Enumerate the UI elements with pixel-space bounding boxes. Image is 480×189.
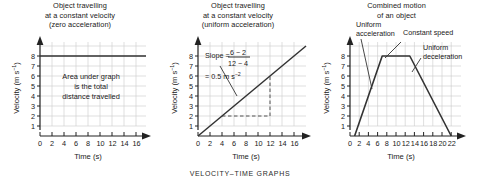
y-axis: 1 2 3 4 5 6 7 8 Velocity (m s−1) — [169, 36, 201, 131]
chart-panel-uniform-acceleration: Object travelling at a constant velocity… — [158, 0, 318, 165]
chart-note-area-under-graph: Area under graph is the total distance t… — [62, 72, 120, 101]
svg-text:0: 0 — [348, 139, 352, 148]
x-tick-labels: 0 2 4 6 8 10 12 14 16 18 20 22 — [348, 139, 456, 148]
svg-text:12: 12 — [108, 139, 116, 148]
svg-text:3: 3 — [341, 102, 345, 111]
figure-caption: VELOCITY–TIME GRAPHS — [0, 170, 480, 177]
svg-text:3: 3 — [31, 102, 35, 111]
y-axis-title: Velocity (m s−1) — [321, 62, 331, 114]
svg-text:5: 5 — [341, 82, 345, 91]
svg-text:8: 8 — [385, 139, 389, 148]
svg-text:2: 2 — [357, 139, 361, 148]
x-axis: 0 2 4 6 8 10 12 14 16 Time (s) — [38, 132, 151, 161]
x-tick-labels: 0 2 4 6 8 10 12 14 16 — [196, 139, 299, 148]
slope-denominator: 12 − 4 — [228, 59, 248, 68]
y-tick-labels: 1 2 3 4 5 6 7 8 — [189, 52, 193, 131]
annotation-line: Uniform — [423, 43, 448, 52]
svg-text:6: 6 — [31, 72, 35, 81]
svg-text:4: 4 — [31, 92, 35, 101]
svg-text:14: 14 — [278, 139, 286, 148]
svg-text:7: 7 — [341, 62, 345, 71]
annotation-constant-speed: Constant speed — [403, 28, 453, 37]
annotation-line: Uniform — [356, 20, 381, 29]
svg-text:10: 10 — [254, 139, 262, 148]
svg-text:22: 22 — [448, 139, 456, 148]
chart-note-line: is the total — [74, 82, 108, 91]
svg-text:4: 4 — [189, 92, 193, 101]
chart-panel-zero-acceleration: Object travelling at a constant velocity… — [0, 0, 160, 165]
x-axis: 0 2 4 6 8 10 12 14 16 18 20 22 Time (s) — [348, 132, 466, 161]
annotation-line: Constant speed — [403, 28, 453, 37]
slope-numerator: 6 − 2 — [230, 48, 246, 57]
svg-text:8: 8 — [341, 52, 345, 61]
svg-text:16: 16 — [290, 139, 298, 148]
chart-note-line: distance travelled — [62, 92, 120, 101]
x-axis-title: Time (s) — [387, 152, 415, 161]
svg-text:3: 3 — [189, 102, 193, 111]
svg-text:4: 4 — [366, 139, 370, 148]
svg-text:2: 2 — [31, 112, 35, 121]
plot-area-combined-motion: 1 2 3 4 5 6 7 8 Velocity (m s−1) — [313, 0, 480, 165]
x-tick-labels: 0 2 4 6 8 10 12 14 16 — [38, 139, 141, 148]
svg-text:6: 6 — [341, 72, 345, 81]
annotation-line: acceleration — [356, 29, 395, 38]
svg-text:2: 2 — [189, 112, 193, 121]
svg-text:4: 4 — [62, 139, 66, 148]
svg-text:20: 20 — [438, 139, 446, 148]
svg-text:6: 6 — [376, 139, 380, 148]
svg-text:1: 1 — [341, 122, 345, 131]
x-axis-title: Time (s) — [232, 152, 260, 161]
svg-text:14: 14 — [120, 139, 128, 148]
slope-label: Slope = — [205, 51, 230, 60]
svg-text:12: 12 — [266, 139, 274, 148]
y-tick-labels: 1 2 3 4 5 6 7 8 — [341, 52, 345, 131]
y-tick-labels: 1 2 3 4 5 6 7 8 — [31, 52, 35, 131]
chart-panel-combined-motion: Combined motion of an object — [313, 0, 473, 165]
annotation-line: deceleration — [423, 52, 462, 61]
svg-text:10: 10 — [392, 139, 400, 148]
svg-text:0: 0 — [38, 139, 42, 148]
svg-text:8: 8 — [86, 139, 90, 148]
svg-text:8: 8 — [189, 52, 193, 61]
svg-text:14: 14 — [411, 139, 419, 148]
svg-text:2: 2 — [50, 139, 54, 148]
svg-text:2: 2 — [208, 139, 212, 148]
svg-text:5: 5 — [189, 82, 193, 91]
velocity-time-graphs-figure: Object travelling at a constant velocity… — [0, 0, 480, 189]
svg-text:6: 6 — [189, 72, 193, 81]
svg-text:6: 6 — [74, 139, 78, 148]
x-axis-title: Time (s) — [74, 152, 102, 161]
svg-text:2: 2 — [341, 112, 345, 121]
svg-text:16: 16 — [132, 139, 140, 148]
x-axis: 0 2 4 6 8 10 12 14 16 Time (s) — [196, 132, 311, 161]
chart-note-line: Area under graph — [62, 72, 120, 81]
svg-text:7: 7 — [189, 62, 193, 71]
svg-text:1: 1 — [189, 122, 193, 131]
svg-text:6: 6 — [232, 139, 236, 148]
y-axis: 1 2 3 4 5 6 7 8 Velocity (m s−1) — [11, 36, 43, 131]
slope-result: = 0.5 m s−2 — [205, 71, 241, 81]
svg-text:12: 12 — [402, 139, 410, 148]
y-axis-title: Velocity (m s−1) — [169, 62, 179, 114]
svg-text:4: 4 — [341, 92, 345, 101]
svg-text:5: 5 — [31, 82, 35, 91]
plot-area-zero-acceleration: 1 2 3 4 5 6 7 8 Velocity (m s−1) — [0, 0, 160, 165]
annotation-uniform-acceleration: Uniform acceleration — [356, 20, 395, 38]
plot-area-uniform-acceleration: 1 2 3 4 5 6 7 8 Velocity (m s−1) — [158, 0, 323, 165]
annotation-leader-lines — [361, 39, 421, 89]
svg-text:8: 8 — [31, 52, 35, 61]
svg-text:16: 16 — [420, 139, 428, 148]
svg-text:1: 1 — [31, 122, 35, 131]
svg-text:18: 18 — [429, 139, 437, 148]
y-axis-title: Velocity (m s−1) — [11, 62, 21, 114]
svg-text:4: 4 — [220, 139, 224, 148]
svg-text:10: 10 — [96, 139, 104, 148]
y-axis: 1 2 3 4 5 6 7 8 Velocity (m s−1) — [321, 36, 353, 131]
svg-text:7: 7 — [31, 62, 35, 71]
svg-text:0: 0 — [196, 139, 200, 148]
svg-text:8: 8 — [244, 139, 248, 148]
